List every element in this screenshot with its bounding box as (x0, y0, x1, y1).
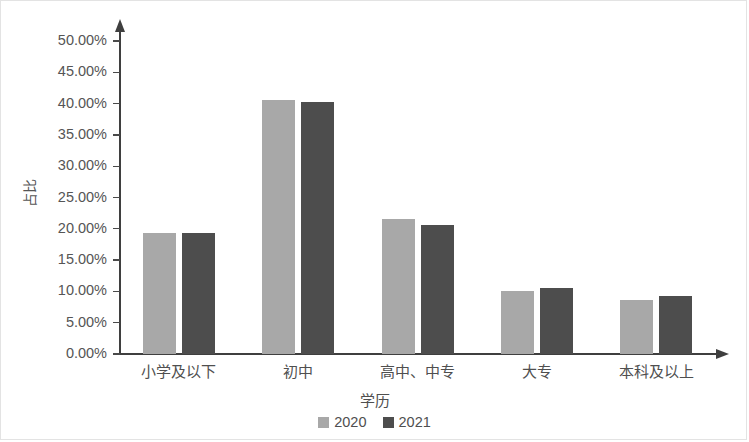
bar-series-layer (1, 1, 748, 354)
y-axis-title: 占比 (19, 163, 39, 223)
bar-2021-小学及以下 (182, 233, 215, 354)
legend-swatch-icon (318, 417, 329, 428)
bar-2020-小学及以下 (143, 233, 176, 354)
x-axis-category-label: 初中 (238, 364, 357, 381)
bar-2021-大专 (540, 288, 573, 354)
legend-label: 2020 (334, 415, 366, 430)
x-axis-category-label: 小学及以下 (119, 364, 238, 381)
bar-2021-初中 (301, 102, 334, 354)
bar-2020-初中 (262, 100, 295, 354)
chart-container: 0.00%5.00%10.00%15.00%20.00%25.00%30.00%… (0, 0, 747, 440)
legend-item-2021[interactable]: 2021 (383, 415, 431, 430)
legend-swatch-icon (383, 417, 394, 428)
bar-2020-大专 (501, 291, 534, 354)
x-axis-title: 学历 (1, 389, 748, 410)
x-axis-category-label: 大专 (477, 364, 596, 381)
x-axis-category-label: 高中、中专 (358, 364, 477, 381)
bar-2021-高中、中专 (421, 225, 454, 354)
bar-2020-高中、中专 (382, 219, 415, 354)
legend-label: 2021 (399, 415, 431, 430)
plot-area: 0.00%5.00%10.00%15.00%20.00%25.00%30.00%… (1, 1, 748, 441)
chart-legend: 20202021 (1, 415, 748, 430)
bar-2021-本科及以上 (659, 296, 692, 354)
x-axis-category-label: 本科及以上 (597, 364, 716, 381)
legend-item-2020[interactable]: 2020 (318, 415, 366, 430)
bar-2020-本科及以上 (620, 300, 653, 354)
